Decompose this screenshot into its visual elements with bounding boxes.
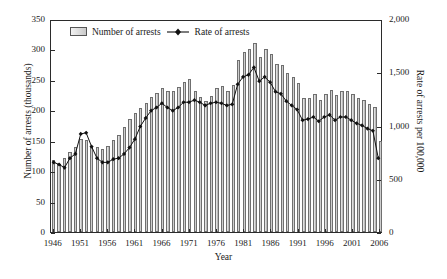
data-point (117, 156, 121, 160)
tick-mark (352, 229, 353, 233)
y-left-tick-label: 100 (5, 166, 45, 176)
legend-marker-line (166, 27, 190, 37)
data-point (349, 118, 353, 122)
data-point (198, 100, 202, 104)
legend-swatch-bar (70, 27, 87, 36)
data-point (263, 75, 267, 79)
line-markers (51, 21, 381, 232)
tick-mark (51, 50, 55, 51)
data-point (230, 102, 234, 106)
tick-mark (51, 111, 55, 112)
data-point (68, 156, 72, 160)
data-point (246, 73, 250, 77)
y-right-tick-label: 500 (389, 174, 433, 184)
tick-mark (298, 229, 299, 233)
data-point (144, 116, 148, 120)
data-point (338, 115, 342, 119)
y-left-tick-label: 150 (5, 136, 45, 146)
x-tick-label: 2006 (359, 238, 399, 248)
data-point (290, 103, 294, 107)
data-point (279, 92, 283, 96)
data-point (225, 103, 229, 107)
data-point (257, 79, 261, 83)
data-point (306, 117, 310, 121)
data-point (241, 75, 245, 79)
data-point (192, 98, 196, 102)
x-axis-label: Year (0, 252, 447, 262)
tick-mark (51, 142, 55, 143)
data-point (122, 152, 126, 156)
tick-mark (162, 229, 163, 233)
data-point (344, 115, 348, 119)
tick-mark (53, 229, 54, 233)
legend-label-rate-of-arrests: Rate of arrests (195, 27, 250, 37)
tick-mark (377, 127, 381, 128)
tick-mark (51, 233, 55, 234)
tick-mark (51, 203, 55, 204)
tick-mark (377, 233, 381, 234)
legend-label-number-of-arrests: Number of arrests (92, 27, 161, 37)
y-right-tick-label: 2,000 (389, 14, 433, 24)
data-point (214, 100, 218, 104)
data-point (360, 123, 364, 127)
data-point (95, 156, 99, 160)
data-point (355, 121, 359, 125)
tick-mark (80, 229, 81, 233)
tick-mark (325, 229, 326, 233)
tick-mark (243, 229, 244, 233)
data-point (187, 100, 191, 104)
y-left-tick-label: 350 (5, 14, 45, 24)
data-point (219, 101, 223, 105)
data-point (57, 162, 61, 166)
y-axis-left-label: Number of arrests (thousands) (23, 41, 33, 201)
data-point (165, 105, 169, 109)
data-point (89, 144, 93, 148)
data-point (376, 156, 380, 160)
y-left-tick-label: 300 (5, 44, 45, 54)
data-point (328, 113, 332, 117)
tick-mark (377, 73, 381, 74)
plot-area (50, 20, 382, 233)
y-left-tick-label: 200 (5, 105, 45, 115)
data-point (149, 109, 153, 113)
data-point (300, 118, 304, 122)
y-right-tick-label: 1,000 (389, 121, 433, 131)
data-point (138, 124, 142, 128)
data-point (295, 108, 299, 112)
data-point (236, 82, 240, 86)
data-point (154, 105, 158, 109)
data-point (322, 115, 326, 119)
chart-legend: Number of arrests Rate of arrests (64, 22, 255, 41)
tick-mark (134, 229, 135, 233)
data-point (160, 101, 164, 105)
data-point (171, 109, 175, 113)
data-point (273, 90, 277, 94)
tick-mark (379, 229, 380, 233)
data-point (181, 100, 185, 104)
data-point (52, 160, 56, 164)
tick-mark (51, 172, 55, 173)
data-point (209, 101, 213, 105)
data-point (176, 105, 180, 109)
data-point (252, 65, 256, 69)
tick-mark (377, 20, 381, 21)
y-right-tick-label: 0 (389, 227, 433, 237)
y-right-tick-label: 1,500 (389, 67, 433, 77)
y-left-tick-label: 0 (5, 227, 45, 237)
data-point (133, 137, 137, 141)
data-point (84, 131, 88, 135)
data-point (317, 119, 321, 123)
data-point (127, 146, 131, 150)
data-point (371, 129, 375, 133)
data-point (268, 80, 272, 84)
tick-mark (51, 81, 55, 82)
y-left-tick-label: 250 (5, 75, 45, 85)
data-point (365, 127, 369, 131)
data-point (311, 115, 315, 119)
data-point (79, 132, 83, 136)
tick-mark (51, 20, 55, 21)
y-left-tick-label: 50 (5, 197, 45, 207)
tick-mark (107, 229, 108, 233)
chart-figure: Number of arrests (thousands) Rate of ar… (0, 0, 447, 279)
data-point (111, 157, 115, 161)
